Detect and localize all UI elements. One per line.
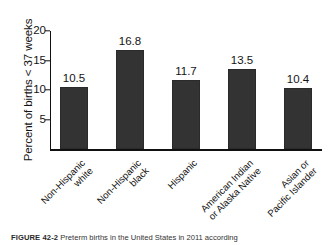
figure-caption-text: Preterm births in the United States in 2…	[60, 233, 238, 242]
bar-value-label: 10.5	[63, 73, 85, 85]
y-axis-tick-mark	[45, 30, 50, 31]
bar-value-label: 16.8	[119, 36, 141, 48]
y-axis-tick-mark	[45, 60, 50, 61]
figure-container: Percent of births < 37 weeks 5101520 10.…	[0, 0, 329, 245]
x-axis-category-labels: Non-HispanicwhiteNon-HispanicblackHispan…	[0, 152, 329, 232]
figure-caption: FIGURE 42-2 Preterm births in the United…	[11, 233, 329, 242]
bar[interactable]	[172, 80, 200, 149]
bar[interactable]	[60, 87, 88, 149]
bar[interactable]	[284, 88, 312, 149]
bar-chart: Percent of births < 37 weeks 5101520 10.…	[0, 0, 329, 232]
x-axis-category-label: Non-Hispanicwhite	[39, 158, 95, 214]
bar-value-label: 10.4	[287, 74, 309, 86]
x-axis-category-label: American Indianor Alaska Native	[199, 158, 263, 222]
x-axis-category-label: Non-Hispanicblack	[95, 158, 151, 214]
x-axis-category-label: Hispanic	[166, 158, 200, 192]
bar-value-label: 11.7	[175, 66, 197, 78]
bar[interactable]	[228, 69, 256, 149]
x-axis-category-label: Asian orPacific Islander	[258, 158, 319, 219]
figure-caption-label: FIGURE 42-2	[11, 233, 58, 242]
y-axis-tick-mark	[45, 119, 50, 120]
y-axis-tick-mark	[45, 89, 50, 90]
bar[interactable]	[116, 50, 144, 149]
x-axis-category-label-line: Hispanic	[166, 158, 200, 192]
bar-value-label: 13.5	[231, 55, 253, 67]
